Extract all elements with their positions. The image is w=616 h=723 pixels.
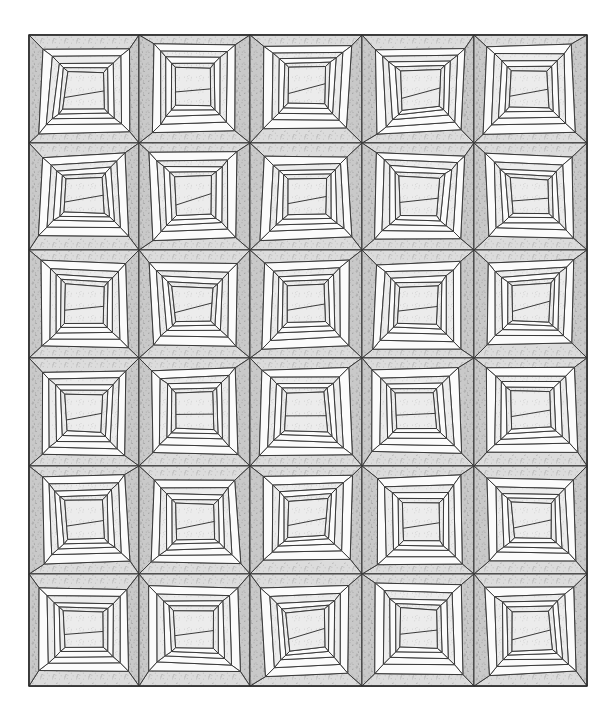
quilt-strip [64, 284, 104, 324]
quilt-strip [139, 671, 250, 686]
quilt-strip [362, 349, 474, 358]
quilt-strip [250, 143, 362, 157]
quilt-strip [139, 250, 250, 264]
quilt-strip [375, 583, 385, 674]
quilt-strip [228, 264, 238, 347]
quilt-strip [161, 51, 166, 124]
quilt-strip [572, 143, 587, 250]
quilt-strip [390, 599, 396, 657]
quilt-block [139, 250, 250, 358]
quilt-strip [272, 53, 279, 120]
quilt-block [474, 466, 587, 574]
quilt-strip [375, 664, 463, 674]
quilt-strip [331, 170, 337, 224]
quilt-strip [453, 261, 460, 349]
quilt-strip [39, 588, 127, 597]
quilt-strip [169, 606, 218, 611]
quilt-block [139, 35, 250, 143]
quilt-strip [511, 502, 551, 538]
quilt-strip [29, 35, 139, 49]
quilt-strip [151, 555, 241, 564]
quilt-strip [41, 260, 50, 346]
quilt-strip [402, 503, 439, 541]
quilt-strip [278, 492, 284, 546]
quilt-strip [390, 165, 396, 224]
quilt-block [250, 35, 362, 143]
quilt-strip [59, 109, 108, 114]
quilt-strip [383, 591, 390, 665]
quilt-strip [250, 559, 362, 574]
quilt-strip [283, 175, 289, 220]
quilt-strip [63, 72, 105, 109]
quilt-strip [362, 35, 474, 50]
quilt-block [362, 250, 474, 358]
quilt-strip [166, 57, 220, 64]
quilt-strip [154, 480, 234, 488]
quilt-block [474, 35, 587, 143]
quilt-block [250, 466, 362, 574]
quilt-strip [42, 372, 49, 454]
quilt-strip [399, 541, 444, 546]
quilt-strip [282, 281, 287, 327]
quilt-block [29, 466, 139, 574]
quilt-block [29, 35, 139, 143]
quilt-strip [474, 561, 587, 574]
quilt-block [362, 466, 474, 574]
quilt-strip [396, 216, 441, 221]
quilt-strip [29, 236, 139, 250]
quilt-strip [474, 452, 587, 466]
quilt-strip [43, 49, 130, 56]
quilt-block [29, 358, 139, 466]
quilt-strip [474, 574, 587, 587]
quilt-strip [287, 284, 325, 322]
quilt-strip [362, 35, 377, 143]
quilt-strip [63, 611, 103, 648]
quilt-strip [108, 63, 115, 118]
quilt-block [362, 574, 474, 686]
quilt-strip [159, 379, 167, 445]
quilt-strip [461, 250, 474, 358]
quilt-strip [112, 272, 120, 340]
quilt-strip [474, 358, 587, 368]
quilt-strip [216, 167, 223, 223]
quilt-strip [250, 466, 263, 574]
quilt-block [250, 250, 362, 358]
quilt-strip [56, 385, 113, 391]
quilt-strip [65, 500, 105, 539]
quilt-strip [393, 429, 441, 433]
quilt-block [139, 143, 250, 250]
quilt-strip [130, 35, 140, 143]
quilt-strip [397, 286, 438, 324]
quilt-strip [387, 383, 443, 389]
quilt-strip [250, 455, 362, 466]
quilt-strip [120, 590, 128, 672]
quilt-strip [29, 250, 42, 358]
quilt-strip [487, 335, 572, 344]
quilt-block [474, 574, 587, 686]
quilt-strip [377, 557, 462, 565]
quilt-block [362, 358, 474, 466]
quilt-strip [218, 601, 224, 659]
quilt-strip [113, 596, 120, 662]
quilt-block [250, 143, 362, 250]
quilt-strip [285, 392, 328, 432]
quilt-strip [388, 433, 447, 439]
quilt-strip [173, 611, 213, 648]
quilt-strip [271, 377, 340, 384]
quilt-strip [149, 586, 157, 671]
quilt-strip [167, 494, 173, 550]
quilt-strip [49, 378, 119, 385]
quilt-strip [29, 574, 39, 686]
quilt-strip [154, 336, 236, 346]
quilt-strip [349, 250, 362, 358]
quilt-strip [161, 330, 228, 337]
quilt-strip [64, 178, 104, 214]
quilt-strip [29, 671, 139, 687]
quilt-strip [288, 499, 328, 538]
quilt-strip [159, 488, 167, 555]
quilt-strip [487, 263, 495, 345]
quilt-strip [139, 143, 250, 152]
quilt-strip [288, 178, 327, 214]
quilt-strip [139, 358, 153, 466]
quilt-strip [461, 466, 474, 574]
